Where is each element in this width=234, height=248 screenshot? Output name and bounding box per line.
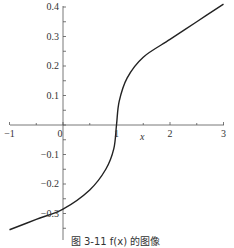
y-axis xyxy=(63,6,66,240)
x-tick-label: 3 xyxy=(214,129,234,139)
x-tick-label: 2 xyxy=(160,129,180,139)
y-tick-label: 0.3 xyxy=(19,32,59,42)
y-tick-label: −0.1 xyxy=(19,150,59,160)
x-tick-label: 1 xyxy=(107,129,127,139)
y-tick-label: 0.1 xyxy=(19,91,59,101)
x-axis-title: x xyxy=(140,131,144,142)
y-tick-label: −0.3 xyxy=(19,209,59,219)
y-tick-label: −0.2 xyxy=(19,179,59,189)
y-tick-label: 0.2 xyxy=(19,61,59,71)
y-tick-label: 0.4 xyxy=(19,2,59,12)
x-tick-label: 0 xyxy=(50,129,70,139)
figure-caption: 图 3-11 f(x) 的图像 xyxy=(0,233,231,248)
x-tick-label: −1 xyxy=(0,129,20,139)
